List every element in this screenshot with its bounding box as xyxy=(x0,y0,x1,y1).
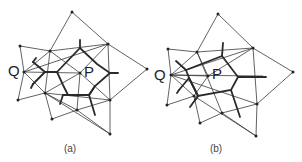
panel-caption-a: (a) xyxy=(50,143,90,154)
point-label-q: Q xyxy=(154,67,166,82)
panel-b: Q P (b) xyxy=(151,0,302,162)
point-label-q: Q xyxy=(8,63,20,78)
panel-a: Q P (a) xyxy=(0,0,151,162)
point-label-p: P xyxy=(212,66,222,81)
point-label-p: P xyxy=(84,64,94,79)
triangulation-diagram-b xyxy=(151,0,302,162)
triangulation-diagram-a xyxy=(0,0,151,162)
panel-caption-b: (b) xyxy=(196,143,236,154)
